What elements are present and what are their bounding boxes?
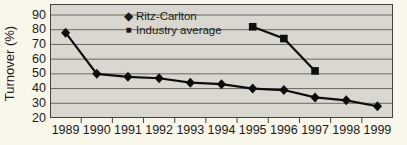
y-tick-label: 90 — [18, 8, 46, 23]
square-marker-icon — [249, 23, 257, 31]
y-tick-label: 80 — [18, 22, 46, 37]
x-tick-label: 1999 — [359, 123, 395, 138]
diamond-marker-icon: ◆ — [121, 9, 136, 23]
turnover-line-chart: Turnover (%) 9080706050403020 ◆ Ritz-Car… — [0, 0, 407, 145]
legend-item-ritz-carlton: ◆ Ritz-Carlton — [121, 9, 222, 23]
legend-label-ritz-carlton: Ritz-Carlton — [136, 10, 197, 22]
y-tick-label: 60 — [18, 52, 46, 67]
y-tick-label: 50 — [18, 66, 46, 81]
y-tick-label: 70 — [18, 37, 46, 52]
square-marker-icon — [280, 35, 288, 43]
y-axis-title: Turnover (%) — [2, 13, 19, 115]
y-tick-label: 30 — [18, 96, 46, 111]
chart-legend: ◆ Ritz-Carlton ■ Industry average — [121, 9, 222, 37]
legend-label-industry-average: Industry average — [136, 24, 222, 36]
square-marker-icon — [311, 67, 319, 75]
y-tick-label: 40 — [18, 81, 46, 96]
y-tick-label: 20 — [18, 111, 46, 126]
legend-item-industry-average: ■ Industry average — [121, 23, 222, 37]
square-marker-icon: ■ — [121, 23, 136, 37]
